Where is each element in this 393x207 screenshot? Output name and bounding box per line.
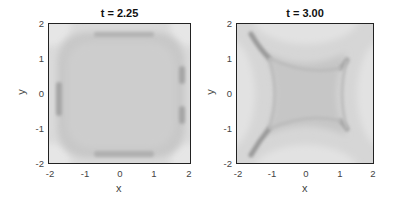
x-axis-label: x [116,182,122,194]
panel-t225: t = 2.25 2 1 [0,0,196,207]
y-tick: 0 [30,88,44,99]
heatmap-image [237,24,374,164]
heatmap-plot-area [48,23,191,164]
heatmap-plot-area [236,23,374,164]
y-tick: 1 [30,53,44,64]
panel-t300: t = 3.00 [190,0,393,207]
x-tick: 0 [117,168,122,179]
y-tick: -2 [218,158,232,169]
y-tick: 1 [218,53,232,64]
heatmap-image [49,24,191,164]
x-tick: 0 [303,168,308,179]
y-tick: 0 [218,88,232,99]
x-axis-label: x [302,182,308,194]
y-tick: -1 [30,123,44,134]
x-tick: 1 [151,168,156,179]
plot-title: t = 2.25 [48,7,191,19]
x-tick: -1 [268,168,276,179]
y-tick: -2 [30,158,44,169]
x-tick: 2 [370,168,375,179]
x-tick: -2 [46,168,54,179]
y-tick: 2 [218,18,232,29]
y-tick: -1 [218,123,232,134]
plot-title: t = 3.00 [236,7,374,19]
x-tick: -2 [234,168,242,179]
y-tick: 2 [30,18,44,29]
x-tick: 1 [337,168,342,179]
x-tick: -1 [81,168,89,179]
y-axis-label: y [15,89,27,95]
y-axis-label: y [204,89,216,95]
